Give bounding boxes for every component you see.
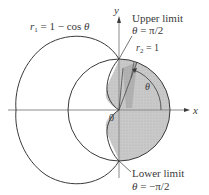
x-axis-arrow-icon: [184, 108, 190, 112]
lower-limit-title: Lower limit: [132, 167, 184, 179]
origin-label: 0: [109, 112, 114, 124]
lower-limit-leader: [119, 161, 131, 172]
cardioid-label: r1 = 1 − cos θ: [30, 20, 90, 36]
lower-limit-value: θ = −π/2: [132, 180, 169, 192]
upper-limit-leader: [119, 36, 132, 59]
x-axis-label: x: [193, 104, 198, 116]
upper-limit-title: Upper limit: [132, 12, 183, 24]
upper-limit-eq: = π/2: [137, 24, 163, 36]
upper-limit-value: θ = π/2: [132, 24, 163, 36]
unit-circle-label-rhs: = 1: [143, 42, 159, 53]
cardioid-label-theta: θ: [84, 20, 89, 32]
lower-limit-eq: = −π/2: [137, 180, 169, 192]
y-axis-arrow-icon: [117, 16, 121, 23]
cardioid-label-rhs: = 1 − cos: [38, 20, 84, 32]
unit-circle-label: r2 = 1: [136, 42, 159, 57]
theta-angle-label: θ: [145, 81, 150, 93]
y-axis-label: y: [114, 4, 119, 16]
